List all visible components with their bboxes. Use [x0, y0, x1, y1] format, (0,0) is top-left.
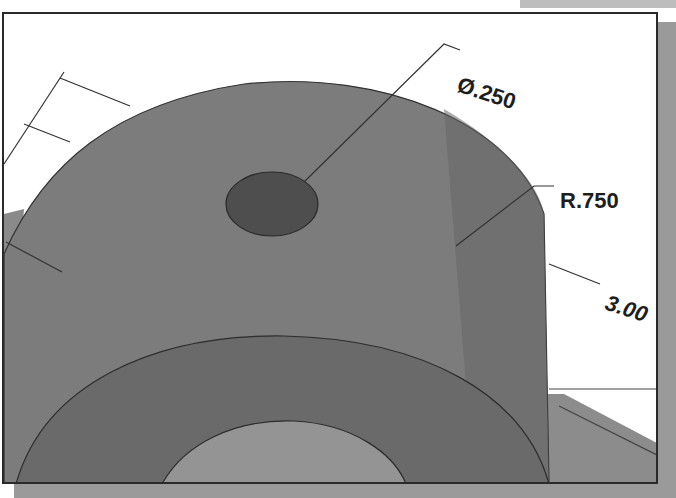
- model-drawing: [4, 14, 658, 484]
- shadow-top-strip: [520, 0, 676, 8]
- figure-frame: Ø.250 R.750 3.00: [2, 12, 658, 484]
- radius-label: R.750: [560, 188, 619, 214]
- length-leader: [549, 264, 600, 284]
- dimension-line-left: [4, 72, 64, 164]
- extension-line-left-mid: [24, 124, 70, 142]
- extension-line-left-top: [60, 78, 130, 106]
